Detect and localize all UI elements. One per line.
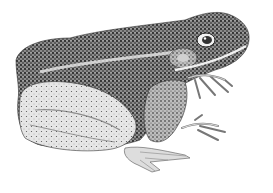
hind-foot [124,147,190,172]
front-hand-lower [182,115,225,140]
frog-drawing [0,0,273,193]
frog-illustration [0,0,273,193]
front-leg [144,80,187,142]
